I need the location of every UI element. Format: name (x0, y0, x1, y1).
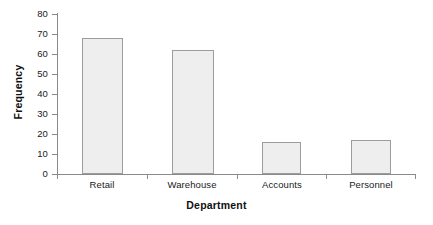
y-tick-mark (52, 134, 57, 135)
y-tick-label: 30 (24, 109, 48, 119)
x-tick-mark (147, 175, 148, 179)
y-tick-label: 10 (24, 149, 48, 159)
y-tick-mark (52, 154, 57, 155)
x-axis-title: Department (0, 199, 433, 211)
y-tick-label: 50 (24, 69, 48, 79)
y-tick-mark (52, 14, 57, 15)
y-axis-line (57, 13, 58, 175)
y-tick-mark (52, 114, 57, 115)
x-tick-mark (237, 175, 238, 179)
x-category-label-retail: Retail (62, 179, 142, 190)
y-tick-label: 20 (24, 129, 48, 139)
x-category-label-warehouse: Warehouse (152, 179, 232, 190)
bar-chart: 80 70 60 50 40 30 20 10 0 Retail Warehou… (0, 0, 433, 225)
bar-personnel (351, 140, 391, 174)
y-tick-label: 70 (24, 29, 48, 39)
y-axis-title: Frequency (12, 47, 24, 137)
y-tick-mark (52, 74, 57, 75)
y-tick-label: 80 (24, 9, 48, 19)
y-tick-mark (52, 94, 57, 95)
y-tick-label: 60 (24, 49, 48, 59)
x-tick-mark (57, 175, 58, 179)
x-category-label-personnel: Personnel (331, 179, 411, 190)
x-category-label-accounts: Accounts (242, 179, 322, 190)
bar-retail (82, 38, 123, 174)
y-tick-label: 40 (24, 89, 48, 99)
y-tick-mark (52, 54, 57, 55)
bar-accounts (262, 142, 301, 174)
x-tick-mark (326, 175, 327, 179)
x-tick-mark (415, 175, 416, 179)
bar-warehouse (172, 50, 214, 174)
y-tick-label: 0 (24, 169, 48, 179)
y-tick-mark (52, 34, 57, 35)
